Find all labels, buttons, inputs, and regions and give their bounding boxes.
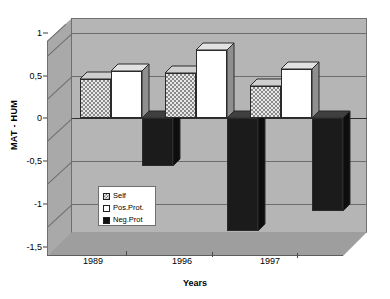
bar-1989-pos-prot [111, 71, 142, 118]
y-tick-label-neg1: -1 [8, 199, 42, 209]
x-tick-label-1997: 1997 [240, 256, 300, 266]
plot-area [47, 18, 367, 256]
bar-1989-neg-prot [142, 118, 173, 166]
bar-1996-self [165, 73, 196, 118]
x-tick-mark-1989 [126, 251, 127, 256]
checkered-swatch-icon [103, 193, 110, 200]
bar-1997-neg-prot [312, 118, 343, 211]
gridline-1 [71, 33, 367, 34]
bar-1997-self [250, 86, 281, 118]
black-swatch-icon [103, 217, 110, 224]
bar-1997-pos-prot [281, 69, 312, 118]
legend-item-self: Self [103, 190, 152, 202]
chart-legend: Self Pos.Prot. Neg.Prot [98, 186, 156, 226]
legend-label-self: Self [113, 192, 126, 200]
legend-label-neg-prot: Neg.Prot [113, 216, 143, 224]
y-tick-label-0_5: 0,5 [8, 71, 42, 81]
y-tick-label-neg1_5: -1,5 [8, 242, 42, 252]
y-tick-label-1: 1 [8, 28, 42, 38]
x-tick-label-1989: 1989 [63, 256, 123, 266]
y-tick-label-neg0_5: -0,5 [8, 156, 42, 166]
x-tick-mark-1996 [212, 252, 213, 257]
bar-chart: MAT - HUM 1 0,5 0 -0,5 -1 -1,5 [0, 0, 390, 299]
side-wall-edge-left [47, 41, 48, 256]
legend-label-pos-prot: Pos.Prot. [113, 204, 144, 212]
bar-1996-neg-prot [227, 118, 258, 231]
legend-item-neg-prot: Neg.Prot [103, 214, 152, 226]
white-swatch-icon [103, 205, 110, 212]
y-tick-label-0: 0 [8, 113, 42, 123]
legend-item-pos-prot: Pos.Prot. [103, 202, 152, 214]
x-axis-title: Years [0, 278, 390, 288]
bar-1989-self [80, 79, 111, 118]
x-tick-label-1996: 1996 [152, 256, 212, 266]
bar-1996-pos-prot [196, 50, 227, 118]
plot-floor [47, 232, 367, 256]
